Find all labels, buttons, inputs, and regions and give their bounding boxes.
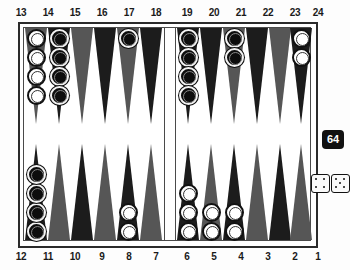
checker-white-point-24[interactable]	[292, 29, 311, 48]
checker-white-point-6[interactable]	[179, 184, 198, 203]
point-1[interactable]	[290, 144, 312, 240]
checker-black-point-14[interactable]	[50, 29, 69, 48]
board-playing-surface	[23, 27, 311, 241]
checker-white-point-13[interactable]	[27, 67, 46, 86]
die-pip	[323, 178, 326, 181]
point-label-21: 21	[232, 6, 250, 20]
point-label-20: 20	[205, 6, 223, 20]
checker-white-point-6[interactable]	[179, 222, 198, 241]
point-label-16: 16	[93, 6, 111, 20]
point-2[interactable]	[269, 144, 291, 240]
top-point-numbers: 131415161718192021222324	[0, 6, 350, 20]
point-label-4: 4	[232, 250, 250, 264]
point-16[interactable]	[94, 28, 116, 124]
board-frame	[18, 22, 318, 248]
checker-black-point-12[interactable]	[27, 222, 46, 241]
checker-black-point-12[interactable]	[27, 184, 46, 203]
point-label-17: 17	[120, 6, 138, 20]
point-15[interactable]	[71, 28, 93, 124]
die-pip	[339, 182, 342, 185]
checker-white-point-4[interactable]	[225, 203, 244, 222]
point-23[interactable]	[269, 28, 291, 124]
checker-black-point-21[interactable]	[225, 29, 244, 48]
bottom-point-numbers: 121110987654321	[0, 250, 350, 264]
checker-white-point-5[interactable]	[202, 203, 221, 222]
checker-black-point-17[interactable]	[119, 29, 138, 48]
point-11[interactable]	[48, 144, 70, 240]
checker-white-point-8[interactable]	[119, 222, 138, 241]
point-label-7: 7	[147, 250, 165, 264]
checker-black-point-21[interactable]	[225, 48, 244, 67]
die-pip	[343, 178, 346, 181]
checker-black-point-19[interactable]	[179, 29, 198, 48]
die-right[interactable]	[331, 174, 350, 193]
point-label-12: 12	[12, 250, 30, 264]
checker-black-point-19[interactable]	[179, 86, 198, 105]
checker-black-point-14[interactable]	[50, 48, 69, 67]
die-pip	[323, 186, 326, 189]
checker-white-point-24[interactable]	[292, 48, 311, 67]
checker-white-point-8[interactable]	[119, 203, 138, 222]
checker-black-point-19[interactable]	[179, 67, 198, 86]
point-18[interactable]	[140, 28, 162, 124]
checker-black-point-14[interactable]	[50, 86, 69, 105]
checker-white-point-6[interactable]	[179, 203, 198, 222]
bar[interactable]	[164, 28, 176, 240]
backgammon-screenshot: 131415161718192021222324 121110987654321…	[0, 0, 350, 270]
doubling-cube[interactable]: 64	[322, 130, 344, 149]
checker-black-point-12[interactable]	[27, 165, 46, 184]
right-half	[176, 28, 312, 240]
point-label-8: 8	[120, 250, 138, 264]
point-label-23: 23	[286, 6, 304, 20]
die-pip	[335, 186, 338, 189]
checker-white-point-4[interactable]	[225, 222, 244, 241]
point-label-9: 9	[93, 250, 111, 264]
point-label-18: 18	[147, 6, 165, 20]
point-20[interactable]	[200, 28, 222, 124]
point-label-19: 19	[178, 6, 196, 20]
die-pip	[315, 186, 318, 189]
die-pip	[315, 178, 318, 181]
point-label-11: 11	[39, 250, 57, 264]
checker-white-point-5[interactable]	[202, 222, 221, 241]
point-label-3: 3	[259, 250, 277, 264]
point-label-10: 10	[66, 250, 84, 264]
checker-white-point-13[interactable]	[27, 29, 46, 48]
point-label-13: 13	[12, 6, 30, 20]
point-10[interactable]	[71, 144, 93, 240]
point-label-24: 24	[309, 6, 327, 20]
checker-black-point-19[interactable]	[179, 48, 198, 67]
point-label-22: 22	[259, 6, 277, 20]
checker-black-point-14[interactable]	[50, 67, 69, 86]
point-7[interactable]	[140, 144, 162, 240]
checker-white-point-13[interactable]	[27, 48, 46, 67]
die-pip	[335, 178, 338, 181]
die-pip	[343, 186, 346, 189]
point-label-14: 14	[39, 6, 57, 20]
checker-white-point-13[interactable]	[27, 86, 46, 105]
point-label-15: 15	[66, 6, 84, 20]
point-22[interactable]	[246, 28, 268, 124]
point-label-2: 2	[286, 250, 304, 264]
dice-tray[interactable]	[311, 174, 350, 193]
point-label-6: 6	[178, 250, 196, 264]
point-9[interactable]	[94, 144, 116, 240]
die-left[interactable]	[311, 174, 330, 193]
point-label-1: 1	[309, 250, 327, 264]
checker-black-point-12[interactable]	[27, 203, 46, 222]
point-label-5: 5	[205, 250, 223, 264]
left-half	[24, 28, 164, 240]
point-3[interactable]	[246, 144, 268, 240]
